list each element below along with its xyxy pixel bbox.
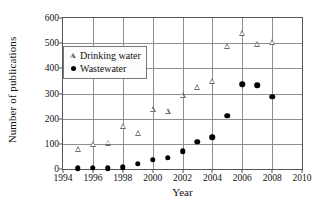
gridline-vertical [272, 18, 273, 169]
open-triangle-icon [75, 146, 81, 152]
x-axis-tick-label: 2004 [203, 173, 222, 183]
legend-label-wastewater: Wastewater [80, 62, 126, 75]
data-point [135, 161, 141, 167]
y-axis-title-text: Number of publications [6, 37, 18, 144]
y-axis-tick-mark [59, 118, 63, 119]
y-axis-tick-mark [59, 143, 63, 144]
x-axis-tick-label: 1996 [83, 173, 102, 183]
legend-item-drinking-water: Drinking water [68, 49, 141, 62]
data-point [165, 108, 171, 114]
gridline-vertical [242, 18, 243, 169]
open-triangle-icon [165, 108, 171, 114]
data-point [254, 82, 260, 88]
x-axis-title-text: Year [172, 186, 192, 198]
filled-circle-icon [254, 82, 260, 88]
data-point [75, 146, 81, 152]
y-axis-tick-mark [59, 18, 63, 19]
x-axis-tick-label: 2002 [173, 173, 192, 183]
y-axis-tick-mark [59, 43, 63, 44]
gridline-vertical [212, 18, 213, 169]
y-axis-tick-label: 100 [45, 139, 59, 149]
y-axis-tick-label: 400 [45, 63, 59, 73]
chart-figure: Number of publications 01002003004005006… [0, 0, 330, 204]
open-triangle-icon [68, 53, 78, 58]
plot-area: 0100200300400500600199419961998200020022… [62, 17, 303, 170]
filled-circle-icon [75, 165, 81, 171]
filled-circle-icon [135, 161, 141, 167]
x-axis-tick-label: 2008 [263, 173, 282, 183]
legend-label-drinking-water: Drinking water [80, 49, 141, 62]
open-triangle-icon [194, 84, 200, 90]
x-axis-tick-label: 1994 [54, 173, 73, 183]
x-axis-title: Year [62, 186, 303, 198]
filled-circle-icon [68, 66, 78, 71]
y-axis-tick-label: 500 [45, 38, 59, 48]
open-triangle-icon [135, 130, 141, 136]
filled-circle-icon [225, 113, 231, 119]
gridline-vertical [153, 18, 154, 169]
y-axis-tick-label: 600 [45, 13, 59, 23]
gridline-vertical [183, 18, 184, 169]
data-point [225, 113, 231, 119]
x-axis-tick-label: 2000 [143, 173, 162, 183]
data-point [165, 155, 171, 161]
data-point [75, 165, 81, 171]
gridline-vertical [123, 18, 124, 169]
y-axis-title: Number of publications [0, 0, 24, 180]
gridline-vertical [93, 18, 94, 169]
data-point [194, 84, 200, 90]
x-axis-tick-label: 2010 [293, 173, 312, 183]
x-axis-tick-label: 1998 [113, 173, 132, 183]
y-axis-tick-label: 300 [45, 89, 59, 99]
chart-legend: Drinking water Wastewater [63, 46, 147, 79]
data-point [135, 130, 141, 136]
y-axis-tick-label: 200 [45, 114, 59, 124]
filled-circle-icon [105, 165, 111, 171]
filled-circle-icon [165, 155, 171, 161]
y-axis-tick-mark [59, 93, 63, 94]
x-axis-tick-label: 2006 [233, 173, 252, 183]
legend-item-wastewater: Wastewater [68, 62, 141, 75]
data-point [105, 165, 111, 171]
